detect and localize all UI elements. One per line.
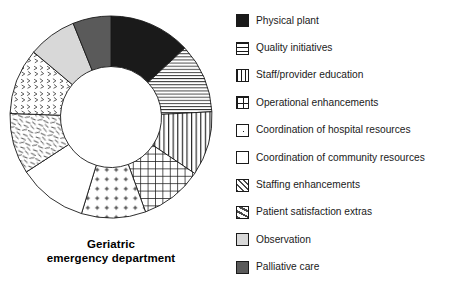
legend-item[interactable]: Staffing enhancements	[236, 171, 463, 198]
swatch-horizontal-lines-icon	[236, 42, 249, 55]
legend-item[interactable]: Coordination of community resources	[236, 144, 463, 171]
legend-item[interactable]: Observation	[236, 226, 463, 253]
legend-item-label: Quality initiatives	[256, 42, 332, 54]
legend-item-label: Operational enhancements	[256, 97, 378, 109]
figure-geriatric-emergency-department: Geriatric emergency department Physical …	[0, 0, 463, 284]
legend-item[interactable]: Patient satisfaction extras	[236, 199, 463, 226]
chart-title-line-2: emergency department	[0, 252, 222, 266]
swatch-dashes-icon	[236, 206, 249, 219]
legend-item[interactable]: Coordination of hospital resources	[236, 117, 463, 144]
donut-chart	[7, 13, 215, 221]
swatch-solid-black-icon	[236, 14, 249, 27]
chart-title: Geriatric emergency department	[0, 238, 222, 265]
swatch-dots-icon	[236, 124, 249, 137]
legend: Physical plantQuality initiativesStaff/p…	[236, 7, 463, 281]
swatch-vertical-lines-icon	[236, 69, 249, 82]
legend-item[interactable]: Staff/provider education	[236, 62, 463, 89]
legend-item-label: Palliative care	[256, 261, 319, 273]
swatch-dark-gray-icon	[236, 261, 249, 274]
legend-item[interactable]: Physical plant	[236, 7, 463, 34]
donut-chart-svg	[7, 13, 215, 221]
swatch-chevrons-icon	[236, 179, 249, 192]
legend-item-label: Coordination of hospital resources	[256, 124, 411, 136]
legend-item-label: Observation	[256, 234, 311, 246]
legend-item-label: Coordination of community resources	[256, 152, 425, 164]
chart-panel: Geriatric emergency department	[0, 0, 228, 284]
chart-title-line-1: Geriatric	[0, 238, 222, 252]
legend-item-label: Staff/provider education	[256, 69, 363, 81]
legend-item[interactable]: Quality initiatives	[236, 34, 463, 61]
legend-item-label: Staffing enhancements	[256, 179, 360, 191]
swatch-light-gray-icon	[236, 233, 249, 246]
legend-item-label: Physical plant	[256, 15, 319, 27]
legend-item-label: Patient satisfaction extras	[256, 206, 372, 218]
swatch-grid-icon	[236, 96, 249, 109]
legend-panel: Physical plantQuality initiativesStaff/p…	[228, 0, 463, 284]
legend-item[interactable]: Palliative care	[236, 254, 463, 281]
swatch-blank-icon	[236, 151, 249, 164]
donut-slice-group	[10, 16, 212, 218]
legend-item[interactable]: Operational enhancements	[236, 89, 463, 116]
